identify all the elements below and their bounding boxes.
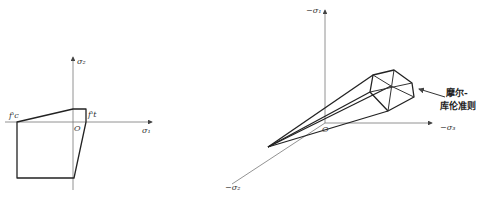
- right-diagram: −σ₁ −σ₃ −σ₂ O 摩尔- 库伦准则: [225, 6, 476, 192]
- neg-sigma3-label: −σ₃: [440, 123, 455, 132]
- annotation-line2: 库伦准则: [440, 100, 476, 111]
- neg-sigma2-axis: [232, 123, 325, 184]
- origin-label-3d: O: [322, 125, 329, 134]
- left-diagram: σ₂ σ₁ O f'c f't: [5, 57, 152, 190]
- fc-label: f'c: [8, 111, 19, 120]
- failure-envelope-2d: [17, 109, 86, 178]
- ft-label: f't: [87, 110, 97, 119]
- sigma1-label: σ₁: [142, 126, 151, 135]
- neg-sigma2-label: −σ₂: [225, 183, 240, 192]
- diagram-canvas: σ₂ σ₁ O f'c f't −σ₁ −σ₃ −σ₂ O 摩尔-: [0, 0, 482, 200]
- neg-sigma1-label: −σ₁: [306, 6, 321, 15]
- origin-label: O: [74, 124, 81, 133]
- annotation-arrow: [419, 89, 445, 97]
- sigma2-label: σ₂: [77, 57, 86, 66]
- annotation-line1: 摩尔-: [446, 87, 468, 98]
- mohr-coulomb-pyramid: [268, 70, 414, 147]
